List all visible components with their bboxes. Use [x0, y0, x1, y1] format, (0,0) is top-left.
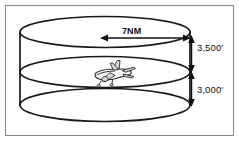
airspace-diagram-figure: 7NM 3,500' 3,000'	[0, 0, 239, 147]
diagram-canvas	[0, 0, 239, 147]
lower-height-dimension-label: 3,000'	[197, 85, 223, 95]
airplane-gear-left-wheel	[97, 85, 100, 87]
airplane-gear-center-wheel	[110, 84, 113, 86]
upper-height-dimension-label: 3,500'	[197, 43, 223, 53]
airplane-engine	[102, 77, 108, 82]
width-dimension-label: 7NM	[122, 27, 141, 36]
